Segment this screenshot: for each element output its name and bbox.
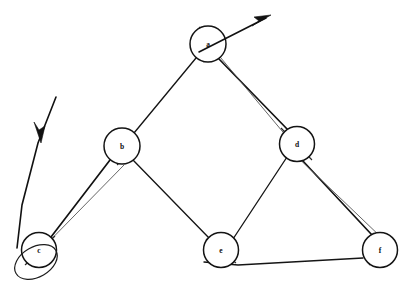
node-f[interactable]: f: [363, 233, 398, 268]
arrow-group: [17, 15, 271, 248]
edge-group: [27, 33, 384, 265]
node-e[interactable]: e: [204, 233, 239, 268]
edge-b-e: [133, 160, 209, 238]
node-a[interactable]: a: [190, 26, 226, 62]
overlap-arc-group: [25, 27, 379, 265]
diagram-canvas: a b c d e f: [0, 0, 409, 288]
edge-d-e: [233, 157, 287, 239]
node-group: a b c d e f: [22, 26, 398, 268]
incoming-arrow-to-c: [17, 97, 56, 248]
edge-a-b: [134, 58, 196, 133]
graph-diagram-svg: a b c d e f: [0, 0, 409, 288]
edge-d-f: [289, 149, 384, 240]
node-b[interactable]: b: [104, 128, 140, 164]
node-d[interactable]: d: [280, 127, 315, 162]
